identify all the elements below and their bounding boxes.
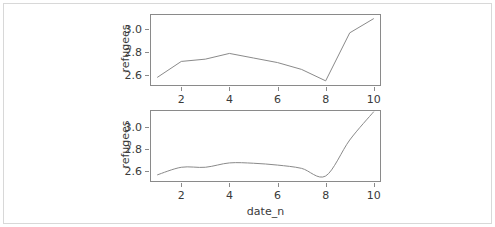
x-tick-label: 2 bbox=[161, 94, 201, 105]
series-line-top bbox=[0, 0, 495, 105]
y-tick-label: 3.0 bbox=[108, 24, 142, 35]
y-tick-mark bbox=[145, 171, 149, 172]
x-tick-mark bbox=[181, 87, 182, 91]
x-tick-mark bbox=[229, 87, 230, 91]
x-tick-label: 10 bbox=[354, 190, 394, 201]
x-tick-label: 2 bbox=[161, 190, 201, 201]
chart-panel-top: refugees 2.62.83.0 246810 bbox=[0, 0, 495, 105]
x-tick-label: 10 bbox=[354, 94, 394, 105]
x-tick-label: 4 bbox=[209, 190, 249, 201]
x-tick-mark bbox=[278, 183, 279, 187]
x-tick-label: 6 bbox=[258, 190, 298, 201]
x-tick-label: 8 bbox=[306, 94, 346, 105]
screenshot-root: refugees 2.62.83.0 246810 refugees 2.62.… bbox=[0, 0, 495, 227]
y-tick-label: 2.6 bbox=[108, 166, 142, 177]
data-line bbox=[157, 19, 374, 81]
x-tick-mark bbox=[181, 183, 182, 187]
x-tick-mark bbox=[374, 183, 375, 187]
chart-panel-bottom: refugees 2.62.83.0 246810 date_n bbox=[0, 105, 495, 227]
x-tick-mark bbox=[326, 183, 327, 187]
y-tick-mark bbox=[145, 75, 149, 76]
y-tick-label: 2.6 bbox=[108, 70, 142, 81]
y-tick-mark bbox=[145, 127, 149, 128]
x-tick-mark bbox=[278, 87, 279, 91]
y-tick-label: 2.8 bbox=[108, 144, 142, 155]
x-tick-label: 8 bbox=[306, 190, 346, 201]
x-tick-label: 4 bbox=[209, 94, 249, 105]
x-tick-label: 6 bbox=[258, 94, 298, 105]
y-tick-label: 3.0 bbox=[108, 122, 142, 133]
y-tick-mark bbox=[145, 52, 149, 53]
x-tick-mark bbox=[374, 87, 375, 91]
x-tick-mark bbox=[326, 87, 327, 91]
y-tick-mark bbox=[145, 29, 149, 30]
y-tick-label: 2.8 bbox=[108, 47, 142, 58]
x-tick-mark bbox=[229, 183, 230, 187]
data-line bbox=[157, 112, 374, 177]
x-axis-title: date_n bbox=[150, 206, 381, 217]
y-tick-mark bbox=[145, 149, 149, 150]
